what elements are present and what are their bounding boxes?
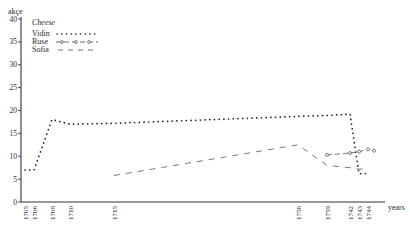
series-ruse-marker: [373, 149, 376, 152]
y-tick-label: 15: [10, 129, 18, 138]
x-tick-label: 1708: [49, 206, 57, 221]
series-vidin-line: [25, 114, 368, 173]
y-tick-label: 5: [13, 175, 17, 184]
y-tick-label: 35: [10, 37, 18, 46]
legend-sofia-label: Sofia: [32, 45, 49, 54]
y-tick-label: 10: [10, 152, 18, 161]
y-tick-label: 25: [10, 83, 18, 92]
series-ruse-marker: [326, 153, 329, 156]
x-tick-label: 1705: [22, 206, 30, 221]
price-chart: akçe years 0510152025303540 170517061708…: [0, 0, 410, 230]
series-ruse-marker: [358, 150, 361, 153]
y-tick-label: 40: [10, 15, 18, 24]
y-ticks: 0510152025303540: [10, 15, 22, 207]
x-tick-label: 1706: [31, 206, 39, 221]
series-layer: [25, 114, 376, 175]
x-tick-label: 1710: [67, 206, 75, 221]
x-tick-label: 1743: [356, 206, 364, 221]
series-ruse-marker: [367, 148, 370, 151]
x-axis-label: years: [388, 203, 405, 212]
x-ticks: 1705170617081710171517561759174217431744: [22, 206, 373, 221]
x-tick-label: 1715: [111, 206, 119, 221]
x-tick-label: 1756: [295, 206, 303, 221]
y-tick-label: 30: [10, 60, 18, 69]
x-tick-label: 1742: [347, 206, 355, 221]
series-sofia-line: [114, 145, 368, 176]
y-tick-label: 20: [10, 106, 18, 115]
legend-title: Cheese: [32, 18, 56, 27]
x-tick-label: 1759: [324, 206, 332, 221]
x-tick-label: 1744: [365, 206, 373, 221]
legend: Cheese Vidin Ruse Sofia: [32, 18, 98, 54]
y-tick-label: 0: [13, 198, 17, 207]
legend-ruse-swatch: [56, 41, 98, 44]
series-ruse-line: [327, 149, 368, 155]
series-ruse-marker: [349, 152, 352, 155]
